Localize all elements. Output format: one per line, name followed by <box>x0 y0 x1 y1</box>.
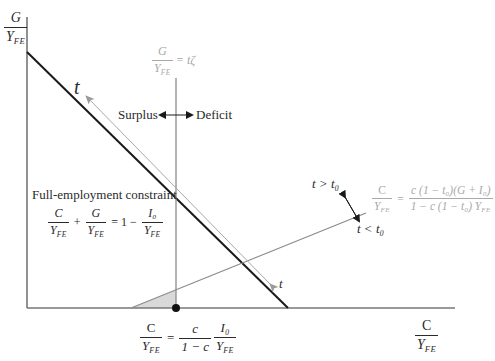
surplus-label: Surplus <box>118 107 158 123</box>
y-axis-label: G YFE <box>4 10 27 46</box>
consumption-line <box>131 213 366 308</box>
constraint-title: Full-employment constraint <box>32 187 177 203</box>
constraint-equation: C YFE + G YFE = 1 − I₀ YFE <box>48 203 163 239</box>
consumption-line-label: C YFE = c (1 − t₀)(G + I₀) 1 − c (1 − t₀… <box>372 180 493 215</box>
t-shift-arrow-lower <box>345 197 359 221</box>
government-line-label: G YFE = tζ <box>152 44 195 77</box>
full-employment-line-t-label: t <box>74 76 80 99</box>
deficit-label: Deficit <box>196 107 232 123</box>
intercept-equation: C YFE = c 1 − c I₀ YFE <box>140 318 236 355</box>
full-employment-line <box>27 52 288 308</box>
t-less-label: t < t₀ <box>357 221 384 237</box>
tax-arrow-t-label: t <box>279 276 283 292</box>
equilibrium-dot <box>172 304 180 312</box>
x-axis-label: C YFE <box>415 318 438 354</box>
t-greater-label: t > t₀ <box>312 176 339 192</box>
